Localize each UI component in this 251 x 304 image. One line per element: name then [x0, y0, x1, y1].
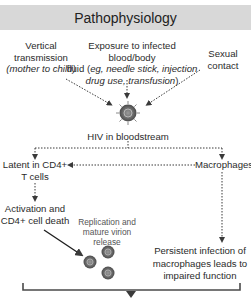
diagram-arrows — [0, 0, 251, 304]
outcome-bracket — [23, 283, 240, 290]
arrow-sexual-to-hub — [148, 70, 200, 104]
bracket-down-arrow — [126, 291, 136, 298]
arrow-vertical-to-hub — [66, 79, 110, 104]
released-virions-icon — [84, 246, 115, 280]
arrow-activation-to-release — [44, 230, 80, 254]
hiv-virion-icon — [116, 101, 140, 125]
